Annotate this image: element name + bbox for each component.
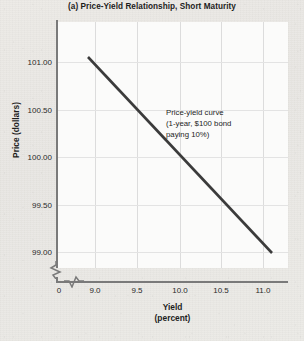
gridline-vertical	[263, 22, 264, 268]
x-tick-label: 10.0	[172, 286, 188, 295]
curve-annotation-text: Price-yield curve (1-year, $100 bond pay…	[166, 107, 231, 141]
x-axis-title-unit: (percent)	[57, 313, 288, 324]
y-tick-label: 100.00	[28, 153, 52, 162]
gridline-horizontal	[57, 62, 288, 63]
gridline-vertical	[180, 22, 181, 268]
x-tick-label: 9.0	[89, 286, 100, 295]
x-axis-title-main: Yield	[57, 302, 288, 313]
gridline-vertical	[137, 22, 138, 268]
gridline-vertical	[221, 22, 222, 268]
x-axis-break-icon	[64, 274, 84, 288]
y-axis-title: Price (dollars)	[11, 70, 21, 190]
x-axis-title: Yield (percent)	[57, 302, 288, 324]
y-tick-label: 100.50	[28, 106, 52, 115]
gridline-horizontal	[57, 157, 288, 158]
plot-area	[57, 22, 288, 268]
gridline-horizontal	[57, 252, 288, 253]
x-tick-label: 9.5	[131, 286, 142, 295]
x-axis-line	[56, 281, 288, 283]
y-axis-line	[56, 20, 58, 268]
x-tick-label: 11.0	[256, 286, 271, 295]
chart-figure: (a) Price-Yield Relationship, Short Matu…	[0, 0, 304, 341]
x-tick-label: 0	[57, 286, 61, 295]
chart-title: (a) Price-Yield Relationship, Short Matu…	[0, 2, 304, 11]
y-tick-label: 101.00	[28, 58, 52, 67]
y-axis-break-icon	[49, 261, 63, 279]
y-tick-label: 99.50	[32, 201, 52, 210]
gridline-vertical	[95, 22, 96, 268]
x-tick-label: 10.5	[213, 286, 229, 295]
y-tick-label: 99.00	[32, 248, 52, 257]
gridline-horizontal	[57, 205, 288, 206]
